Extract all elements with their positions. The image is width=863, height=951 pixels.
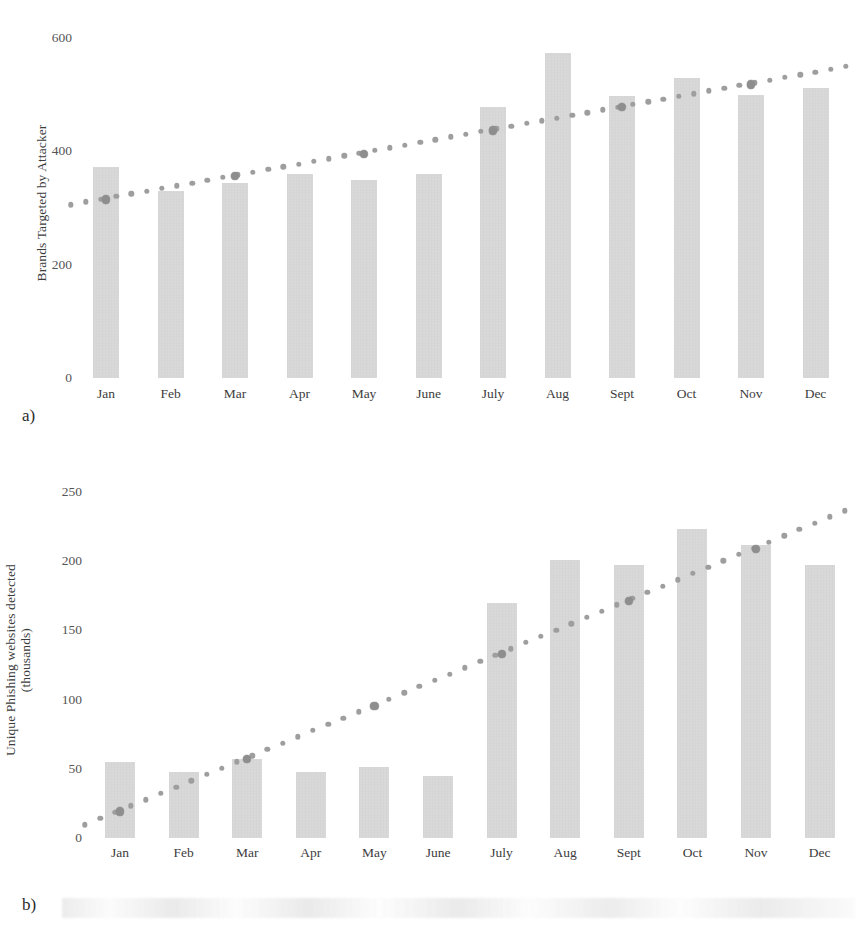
trendline-dot xyxy=(812,520,817,525)
plot-area-panel-b xyxy=(96,492,854,838)
trendline-dot xyxy=(782,75,787,80)
trendline-dot xyxy=(68,202,73,207)
chart-panel-b: Unique Phishing websites detected(thousa… xyxy=(0,455,863,951)
trendline-dot xyxy=(158,791,163,796)
trendline-dot xyxy=(204,772,209,777)
bar xyxy=(480,107,506,378)
trendline-dot xyxy=(83,199,88,204)
trendline-dot xyxy=(538,633,543,638)
bar xyxy=(158,191,184,378)
x-axis-tick-label: Sept xyxy=(617,845,641,861)
bar xyxy=(545,53,571,378)
trendline-dot xyxy=(660,583,665,588)
trendline-dot xyxy=(356,709,361,714)
trendline-dot xyxy=(189,180,194,185)
trendline-dot xyxy=(372,148,377,153)
x-axis-tick-label: Dec xyxy=(809,845,831,861)
trendline-marker xyxy=(360,150,368,158)
bar xyxy=(287,174,313,378)
trendline-dot xyxy=(569,113,574,118)
trendline-marker xyxy=(231,172,239,180)
trendline-dot xyxy=(721,85,726,90)
x-axis-tick-label: May xyxy=(362,845,387,861)
trendline-dot xyxy=(827,514,832,519)
trendline-dot xyxy=(281,164,286,169)
trendline-dot xyxy=(813,69,818,74)
trendline-dot xyxy=(782,533,787,538)
trendline-dot xyxy=(645,99,650,104)
trendline-marker xyxy=(747,81,755,89)
y-axis-title-panel-a: Brands Targeted by Attacker xyxy=(34,88,50,318)
x-axis-tick-label: Oct xyxy=(677,386,697,402)
trendline-dot xyxy=(386,696,391,701)
bar xyxy=(296,772,326,838)
y-axis-tick-label: 400 xyxy=(52,143,72,159)
trendline-dot xyxy=(447,671,452,676)
trendline-dot xyxy=(220,175,225,180)
bar xyxy=(416,174,442,378)
y-axis-tick-label: 0 xyxy=(75,830,82,846)
x-axis-tick-label: June xyxy=(426,845,451,861)
x-axis-tick-label: Aug xyxy=(554,845,577,861)
bar xyxy=(222,183,248,379)
trendline-dot xyxy=(448,134,453,139)
x-axis-tick-label: Dec xyxy=(805,386,827,402)
trendline-dot xyxy=(295,734,300,739)
trendline-dot xyxy=(645,589,650,594)
bar xyxy=(550,560,580,838)
y-axis-tick-label: 200 xyxy=(62,553,82,569)
trendline-dot xyxy=(219,765,224,770)
figure-two-panel-phishing-statistics: Brands Targeted by Attacker 0200400600 J… xyxy=(0,0,863,951)
trendline-dot xyxy=(599,608,604,613)
plot-area-panel-a xyxy=(86,38,854,378)
trendline-dot xyxy=(417,684,422,689)
trendline-dot xyxy=(585,110,590,115)
trendline-dot xyxy=(402,690,407,695)
y-axis-tick-label: 100 xyxy=(62,692,82,708)
trendline-dot xyxy=(265,167,270,172)
trendline-dot xyxy=(205,177,210,182)
trendline-dot xyxy=(523,640,528,645)
y-axis-title-panel-b: Unique Phishing websites detected(thousa… xyxy=(3,510,33,810)
trendline-dot xyxy=(310,728,315,733)
x-axis-tick-label: June xyxy=(416,386,441,402)
trendline-dot xyxy=(326,156,331,161)
bar xyxy=(359,767,389,838)
x-axis-tick-label: Feb xyxy=(160,386,180,402)
trendline-dot xyxy=(509,123,514,128)
bar xyxy=(805,565,835,838)
trendline-dot xyxy=(311,159,316,164)
bar xyxy=(423,776,453,838)
trendline-dot xyxy=(432,677,437,682)
trendline-dot xyxy=(463,131,468,136)
y-axis-tick-label: 0 xyxy=(65,370,72,386)
x-axis-tick-label: Aug xyxy=(546,386,569,402)
y-axis-tick-label: 50 xyxy=(69,761,83,777)
bar xyxy=(487,603,517,838)
trendline-dot xyxy=(584,615,589,620)
trendline-dot xyxy=(706,564,711,569)
bar xyxy=(741,545,771,838)
x-axis-tick-label: Oct xyxy=(683,845,703,861)
trendline-dot xyxy=(797,527,802,532)
trendline-dot xyxy=(265,747,270,752)
trendline-dot xyxy=(250,169,255,174)
x-axis-tick-label: Jan xyxy=(97,386,115,402)
trendline-dot xyxy=(661,96,666,101)
bar xyxy=(609,96,635,378)
trendline-dot xyxy=(174,183,179,188)
bar xyxy=(674,78,700,378)
trendline-dot xyxy=(144,188,149,193)
bar xyxy=(803,88,829,378)
bar xyxy=(351,180,377,378)
x-axis-tick-label: Apr xyxy=(289,386,310,402)
x-axis-tick-label: Apr xyxy=(300,845,321,861)
bar xyxy=(738,95,764,378)
y-axis-tick-label: 150 xyxy=(62,622,82,638)
trendline-dot xyxy=(129,191,134,196)
trendline-dot xyxy=(98,816,103,821)
x-axis-tick-label: Nov xyxy=(744,845,767,861)
trendline-marker xyxy=(370,702,378,710)
x-axis-tick-label: Feb xyxy=(173,845,193,861)
trendline-dot xyxy=(721,558,726,563)
